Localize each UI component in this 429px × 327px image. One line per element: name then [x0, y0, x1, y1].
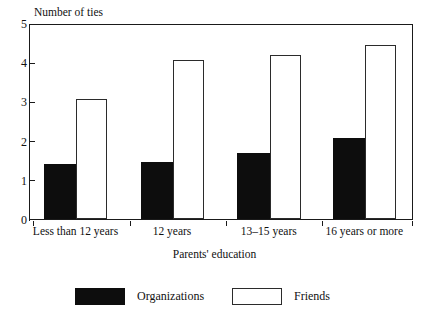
plot-area [29, 24, 413, 220]
bar-friends [365, 45, 396, 219]
legend-item-friends: Friends [232, 286, 330, 306]
y-axis-tick-mark [29, 63, 35, 64]
x-axis-title: Parents' education [0, 247, 429, 261]
y-axis-tick-labels: 012345 [0, 0, 27, 327]
bar-organizations [237, 153, 270, 219]
y-axis-tick-label: 2 [5, 136, 27, 148]
y-axis-tick-label: 5 [5, 18, 27, 30]
y-axis-tick-mark [29, 180, 35, 181]
bar-organizations [44, 164, 76, 219]
x-axis-category-label: 16 years or more [304, 224, 424, 238]
bar-organizations [333, 138, 366, 219]
x-axis-tick-mark [412, 221, 413, 226]
bar-organizations [141, 162, 173, 219]
bar-friends [76, 99, 107, 219]
chart-legend: OrganizationsFriends [0, 286, 429, 308]
y-axis-tick-mark [29, 102, 35, 103]
y-axis-tick-label: 1 [5, 175, 27, 187]
bar-chart-figure: Number of ties 012345 Parents' education… [0, 0, 429, 327]
y-axis-tick-mark [29, 141, 35, 142]
y-axis-title: Number of ties [34, 5, 103, 19]
y-axis-tick-label: 3 [5, 96, 27, 108]
bar-friends [173, 60, 204, 219]
legend-item-organizations: Organizations [75, 286, 204, 306]
legend-label: Organizations [137, 289, 204, 303]
legend-swatch-icon [75, 288, 125, 305]
bar-friends [270, 55, 301, 219]
legend-label: Friends [294, 289, 330, 303]
legend-swatch-icon [232, 288, 282, 305]
y-axis-tick-label: 4 [5, 57, 27, 69]
